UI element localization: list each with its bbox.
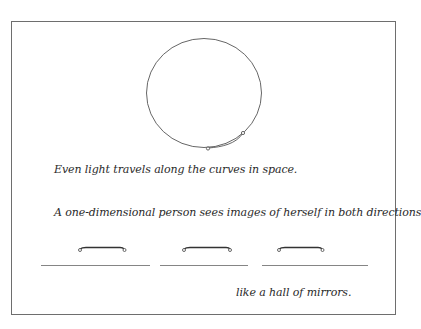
- caption-curved-light: Even light travels along the curves in s…: [54, 163, 297, 176]
- person-dot-icon: [241, 131, 244, 134]
- one-dimensional-person-1: [79, 248, 127, 252]
- person-dot-icon: [206, 147, 209, 150]
- one-dimensional-person-2: [183, 248, 232, 252]
- caption-one-dimensional: A one-dimensional person sees images of …: [54, 206, 421, 219]
- closed-space-circle: [147, 39, 262, 148]
- one-dimensional-person-3: [278, 248, 325, 252]
- caption-hall-of-mirrors: like a hall of mirrors.: [236, 286, 351, 299]
- light-path-curve: [206, 131, 244, 150]
